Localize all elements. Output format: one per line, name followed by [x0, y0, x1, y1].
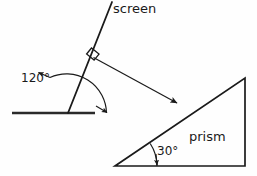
prism-triangle [115, 78, 245, 166]
label-angle-120: 120° [21, 72, 50, 84]
label-prism: prism [189, 130, 226, 143]
right-angle-icon [87, 48, 99, 60]
diagram-canvas: screen prism 120° 30° [0, 0, 257, 176]
incident-ray-arrow [94, 58, 178, 104]
optics-diagram-svg [0, 0, 257, 176]
label-screen: screen [113, 2, 156, 15]
label-angle-30: 30° [157, 145, 178, 157]
